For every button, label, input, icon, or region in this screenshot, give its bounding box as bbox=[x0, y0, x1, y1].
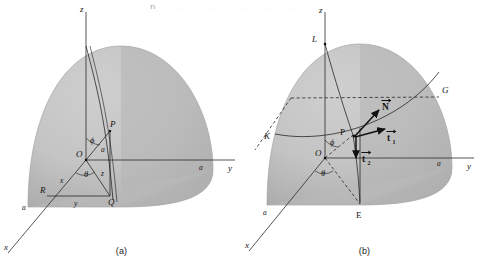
point-l-dot bbox=[324, 43, 327, 46]
x-axis-radius-mark-label: a bbox=[22, 203, 26, 212]
point-g-label: G bbox=[442, 85, 449, 95]
radius-op-label: a bbox=[101, 145, 105, 154]
vector-t1-subscript: 1 bbox=[393, 139, 396, 145]
y-axis-label: y bbox=[227, 163, 232, 173]
figure-panel-a: z y a x a ϕ θ bbox=[0, 0, 243, 267]
figure-root: p, ..., ... ... ... ... ... ... ... ... … bbox=[0, 0, 486, 267]
component-y-label: y bbox=[73, 199, 78, 208]
quarter-sphere-body-b bbox=[267, 44, 452, 205]
height-z-label: z bbox=[100, 169, 104, 178]
origin-label: O bbox=[315, 148, 322, 158]
angle-theta-label: θ bbox=[321, 168, 325, 178]
component-x-label: x bbox=[59, 176, 64, 185]
x-axis-radius-mark-label: a bbox=[263, 208, 267, 217]
caption-a: (a) bbox=[0, 246, 243, 256]
point-p-label: P bbox=[109, 119, 116, 129]
diagram-a-canvas: z y a x a ϕ θ bbox=[0, 0, 243, 267]
point-r-label: R bbox=[39, 185, 46, 195]
point-l-label: L bbox=[311, 34, 317, 44]
point-q-label: Q bbox=[108, 197, 115, 207]
z-axis-label: z bbox=[79, 4, 84, 14]
origin-label: O bbox=[76, 149, 83, 159]
quarter-sphere-body-a bbox=[28, 46, 213, 207]
angle-phi-label: ϕ bbox=[330, 137, 335, 147]
point-p-dot bbox=[109, 130, 111, 132]
y-axis-radius-mark-label: a bbox=[199, 163, 203, 172]
point-e-label: E bbox=[356, 210, 362, 220]
figure-panel-b: z y a x a N bbox=[243, 0, 486, 267]
origin-dot bbox=[85, 159, 88, 162]
vector-normal-label: N bbox=[382, 102, 389, 112]
y-axis-label: y bbox=[466, 161, 471, 171]
point-k-label: K bbox=[263, 131, 271, 141]
angle-theta-label: θ bbox=[84, 169, 88, 179]
z-axis-label: z bbox=[318, 5, 323, 15]
y-axis-radius-mark-label: a bbox=[437, 159, 441, 168]
diagram-b-canvas: z y a x a N bbox=[243, 0, 486, 267]
caption-b: (b) bbox=[243, 246, 486, 256]
vector-t2-subscript: 2 bbox=[368, 160, 371, 166]
point-p-label: P bbox=[340, 127, 345, 137]
angle-phi-label: ϕ bbox=[90, 135, 95, 145]
point-p-dot bbox=[352, 134, 355, 137]
origin-dot bbox=[324, 157, 327, 160]
